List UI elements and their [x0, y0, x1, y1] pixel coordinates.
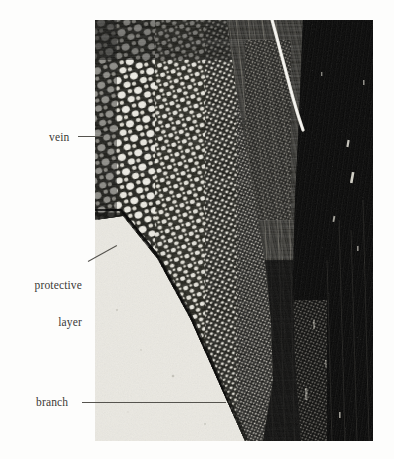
annotation-label-protective-layer-line2: layer	[20, 316, 82, 328]
annotation-label-vein: vein	[49, 131, 69, 143]
photomicrograph	[95, 20, 373, 441]
leader-line-branch	[82, 402, 226, 403]
film-grain	[95, 20, 373, 441]
figure-root: vein protective layer branch	[0, 0, 394, 459]
annotation-label-protective-layer-line1: protective	[20, 279, 82, 291]
annotation-label-protective-layer: protective layer	[20, 255, 82, 353]
annotation-label-branch: branch	[36, 396, 68, 408]
micrograph-image	[95, 20, 373, 441]
leader-line-vein	[78, 136, 104, 137]
